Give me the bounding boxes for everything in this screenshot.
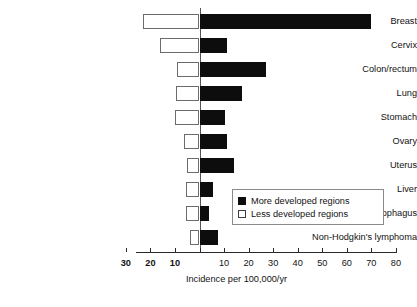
bar-more-developed [200, 38, 227, 53]
bar-less-developed [177, 62, 199, 77]
bar-less-developed [184, 134, 200, 149]
bar-row [0, 62, 417, 77]
bar-row [0, 86, 417, 101]
axis-tick-label: 70 [359, 258, 383, 268]
bar-row [0, 134, 417, 149]
bar-more-developed [200, 14, 372, 29]
axis-tick-label: 10 [163, 258, 187, 268]
bar-more-developed [200, 86, 243, 101]
axis-tick [200, 248, 201, 252]
bar-row [0, 14, 417, 29]
bar-row [0, 110, 417, 125]
bar-less-developed [190, 230, 200, 245]
bar-less-developed [143, 14, 199, 29]
axis-tick-label: 30 [114, 258, 138, 268]
bar-less-developed [186, 206, 200, 221]
axis-tick-label: 60 [335, 258, 359, 268]
axis-tick [175, 248, 176, 252]
bar-row [0, 158, 417, 173]
bar-less-developed [187, 158, 199, 173]
bar-more-developed [200, 62, 266, 77]
bar-row [0, 230, 417, 245]
bar-more-developed [200, 110, 226, 125]
axis-tick-label: 10 [212, 258, 236, 268]
bar-more-developed [200, 206, 210, 221]
filled-square-icon [238, 197, 246, 205]
chart-figure: Breast Cervix Colon/rectum Lung Stomach … [0, 0, 417, 307]
legend-item-less-developed: Less developed regions [238, 207, 377, 220]
axis-tick [298, 248, 299, 252]
x-axis-line [136, 252, 397, 253]
axis-tick [249, 248, 250, 252]
plot-area: 3020101020304050607080 Incidence per 100… [0, 0, 417, 307]
bar-more-developed [200, 182, 214, 197]
x-axis-title: Incidence per 100,000/yr [126, 274, 347, 285]
bar-more-developed [200, 158, 234, 173]
legend: More developed regions Less developed re… [232, 189, 384, 225]
axis-tick [126, 248, 127, 252]
axis-tick [371, 248, 372, 252]
axis-tick-label: 40 [286, 258, 310, 268]
axis-tick-label: 20 [138, 258, 162, 268]
axis-tick [396, 248, 397, 252]
bar-less-developed [176, 86, 199, 101]
legend-label-more-developed: More developed regions [251, 196, 350, 206]
axis-tick [273, 248, 274, 252]
legend-label-less-developed: Less developed regions [251, 209, 348, 219]
axis-tick [322, 248, 323, 252]
axis-tick [347, 248, 348, 252]
axis-tick [224, 248, 225, 252]
open-square-icon [238, 210, 246, 218]
axis-tick-label: 30 [261, 258, 285, 268]
bar-more-developed [200, 230, 218, 245]
axis-tick-label: 80 [384, 258, 408, 268]
bar-less-developed [160, 38, 199, 53]
bar-less-developed [175, 110, 200, 125]
axis-tick-label: 20 [237, 258, 261, 268]
axis-tick [150, 248, 151, 252]
bar-more-developed [200, 134, 227, 149]
legend-item-more-developed: More developed regions [238, 194, 377, 207]
axis-tick-label: 50 [310, 258, 334, 268]
bar-less-developed [186, 182, 200, 197]
bar-row [0, 38, 417, 53]
